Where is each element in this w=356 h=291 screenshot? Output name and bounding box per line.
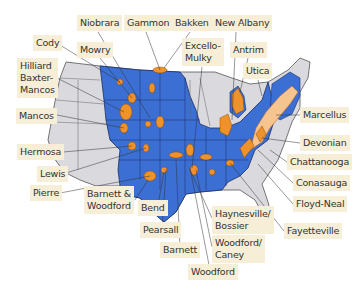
label-woodford-caney: Woodford/ Caney <box>212 235 265 263</box>
label-hilliard: Hilliard Baxter- Mancos <box>17 58 58 98</box>
label-utica: Utica <box>243 63 272 79</box>
label-pierre: Pierre <box>30 185 62 201</box>
label-hermosa: Hermosa <box>17 144 64 160</box>
label-fayetteville: Fayetteville <box>284 223 342 239</box>
label-gammon: Gammon <box>124 15 172 31</box>
label-niobrara: Niobrara <box>77 15 122 31</box>
label-devonian: Devonian <box>300 135 350 151</box>
label-mancos: Mancos <box>16 108 57 124</box>
label-marcellus: Marcellus <box>300 107 349 123</box>
label-new-albany: New Albany <box>212 15 272 31</box>
label-conasauga: Conasauga <box>293 175 350 191</box>
label-barnett-woodford: Barnett & Woodford <box>84 186 134 214</box>
label-bakken: Bakken <box>172 15 212 31</box>
label-barnett: Barnett <box>160 242 200 258</box>
label-pearsall: Pearsall <box>140 222 181 238</box>
label-woodford: Woodford <box>188 264 238 280</box>
label-bend: Bend <box>138 200 168 216</box>
label-excello-mulky: Excello- Mulky <box>182 38 224 66</box>
label-mowry: Mowry <box>77 42 113 58</box>
label-chattanooga: Chattanooga <box>287 154 352 170</box>
label-floyd-neal: Floyd-Neal <box>293 196 347 212</box>
label-lewis: Lewis <box>37 166 68 182</box>
label-haynesville: Haynesville/ Bossier <box>212 206 274 234</box>
label-cody: Cody <box>33 35 62 51</box>
label-antrim: Antrim <box>230 42 267 58</box>
